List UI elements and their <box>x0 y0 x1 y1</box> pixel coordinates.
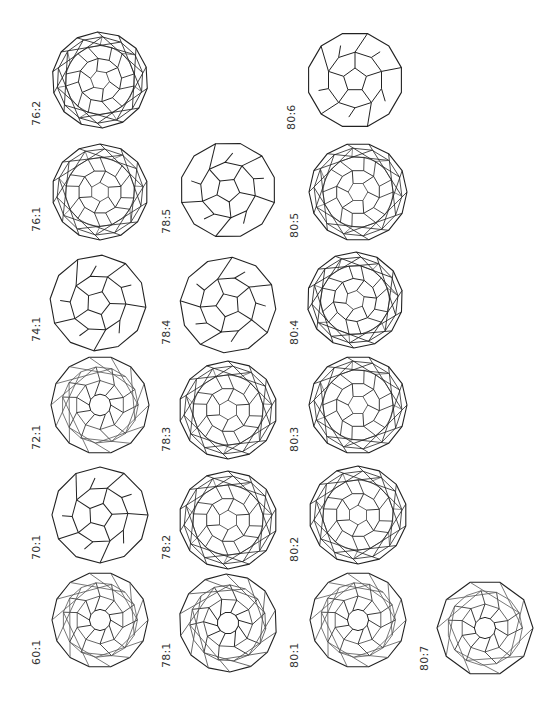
molecule-80-6 <box>303 28 407 132</box>
fullerene-wireframe-icon <box>176 253 280 357</box>
molecule-76-2 <box>48 28 152 132</box>
molecule-80-3 <box>305 352 411 458</box>
fullerene-wireframe-icon <box>305 352 411 458</box>
fullerene-wireframe-icon <box>48 568 152 672</box>
fullerene-wireframe-icon <box>306 568 410 672</box>
fullerene-wireframe-icon <box>48 140 152 244</box>
fullerene-wireframe-icon <box>48 28 152 132</box>
molecule-label: 80:5 <box>288 212 301 238</box>
molecule-78-3 <box>175 357 281 463</box>
molecule-label: 60:1 <box>30 639 43 665</box>
molecule-80-4 <box>303 248 407 352</box>
molecule-80-7 <box>433 576 537 680</box>
molecule-label: 70:1 <box>30 534 43 560</box>
molecule-label: 80:7 <box>418 645 431 671</box>
molecule-78-5 <box>176 138 280 242</box>
fullerene-wireframe-icon <box>175 467 281 573</box>
molecule-60-1 <box>48 568 152 672</box>
molecule-label: 80:3 <box>288 426 301 452</box>
molecule-70-1 <box>48 463 152 567</box>
molecule-label: 80:4 <box>288 319 301 345</box>
molecule-80-2 <box>305 462 411 568</box>
molecule-label: 78:2 <box>160 534 173 560</box>
molecule-78-1 <box>175 570 281 676</box>
fullerene-wireframe-icon <box>305 462 411 568</box>
molecule-78-4 <box>176 253 280 357</box>
molecule-label: 76:2 <box>30 100 43 126</box>
molecule-78-2 <box>175 467 281 573</box>
molecule-label: 74:1 <box>30 316 43 342</box>
molecule-label: 80:1 <box>288 642 301 668</box>
molecule-76-1 <box>48 140 152 244</box>
molecule-label: 80:2 <box>288 536 301 562</box>
fullerene-figure: 76:280:676:178:580:574:178:480:472:178:3… <box>0 0 560 706</box>
molecule-72-1 <box>47 352 153 458</box>
molecule-label: 80:6 <box>285 104 298 130</box>
molecule-80-1 <box>306 568 410 672</box>
fullerene-wireframe-icon <box>176 138 280 242</box>
fullerene-wireframe-icon <box>303 28 407 132</box>
fullerene-wireframe-icon <box>303 248 407 352</box>
fullerene-wireframe-icon <box>175 357 281 463</box>
molecule-label: 78:4 <box>160 319 173 345</box>
molecule-label: 72:1 <box>30 424 43 450</box>
molecule-label: 76:1 <box>30 206 43 232</box>
fullerene-wireframe-icon <box>433 576 537 680</box>
fullerene-wireframe-icon <box>47 352 153 458</box>
molecule-label: 78:3 <box>160 426 173 452</box>
molecule-label: 78:1 <box>160 642 173 668</box>
molecule-label: 78:5 <box>160 208 173 234</box>
fullerene-wireframe-icon <box>48 463 152 567</box>
fullerene-wireframe-icon <box>305 139 411 245</box>
molecule-80-5 <box>305 139 411 245</box>
molecule-74-1 <box>46 251 150 355</box>
fullerene-wireframe-icon <box>46 251 150 355</box>
fullerene-wireframe-icon <box>175 570 281 676</box>
